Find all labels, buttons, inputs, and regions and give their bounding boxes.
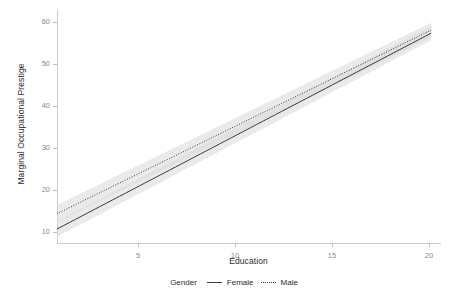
y-axis-title: Marginal Occupational Prestige	[14, 0, 28, 248]
legend-label-female: Female	[227, 278, 254, 287]
chart-container: Marginal Occupational Prestige 60 50 40 …	[0, 0, 468, 304]
confidence-band-layer	[57, 23, 431, 237]
y-tick-label-60: 60	[26, 17, 50, 27]
y-tick-label-30: 30	[26, 143, 50, 153]
y-tick-label-text: 30	[28, 143, 50, 152]
legend-item-female[interactable]: Female	[207, 278, 254, 287]
y-tick-label-20: 20	[26, 185, 50, 195]
confidence-band-male	[57, 23, 431, 223]
y-tick-label-text: 40	[28, 101, 50, 110]
trend-line-male	[57, 30, 431, 214]
legend-title: Gender	[170, 278, 197, 287]
legend-label-male: Male	[281, 278, 298, 287]
regression-lines-svg	[57, 10, 441, 243]
y-tick-label-40: 40	[26, 101, 50, 111]
y-tick-label-text: 50	[28, 59, 50, 68]
dotted-line-icon	[261, 279, 276, 287]
plot-area	[57, 10, 441, 243]
y-tick-label-10: 10	[26, 227, 50, 237]
y-tick-label-text: 10	[28, 227, 50, 236]
trend-line-female	[57, 33, 431, 229]
legend-item-male[interactable]: Male	[261, 278, 298, 287]
y-tick-label-text: 60	[28, 17, 50, 26]
x-axis-title: Education	[57, 256, 440, 266]
y-tick-label-50: 50	[26, 59, 50, 69]
solid-line-icon	[207, 279, 222, 287]
legend: Gender Female Male	[0, 278, 468, 287]
y-tick-label-text: 20	[28, 185, 50, 194]
